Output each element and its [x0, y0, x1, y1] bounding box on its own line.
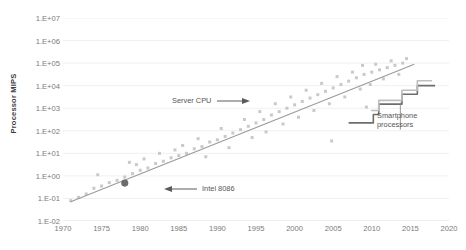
y-axis-tick-label: 1.E+01 — [16, 149, 60, 158]
data-point-marker — [405, 57, 408, 60]
data-point-marker — [320, 82, 323, 85]
arrow-right-icon — [217, 97, 251, 105]
data-point-marker — [247, 125, 250, 128]
chart-container: Processor MIPS 1.E+071.E+061.E+051.E+041… — [0, 0, 466, 250]
data-point-marker — [200, 145, 203, 148]
x-axis-tick-label: 2010 — [363, 224, 380, 233]
data-point-marker — [297, 116, 300, 119]
data-point-marker — [131, 172, 134, 175]
data-point-marker — [363, 73, 366, 76]
data-point-marker — [181, 144, 184, 147]
data-point-marker — [173, 148, 176, 151]
data-point-marker — [128, 161, 131, 164]
data-point-marker — [374, 63, 377, 66]
data-point-marker — [289, 95, 292, 98]
data-point-marker — [162, 160, 165, 163]
data-point-marker — [330, 139, 333, 142]
data-point-marker — [255, 121, 258, 124]
data-point-marker — [123, 176, 126, 179]
y-axis-tick-label: 1.E-01 — [16, 194, 60, 203]
data-point-marker — [96, 173, 99, 176]
data-point-marker — [336, 75, 339, 78]
data-point-marker — [351, 71, 354, 74]
data-point-marker — [386, 66, 389, 69]
data-point-marker — [359, 88, 362, 91]
data-point-marker — [282, 123, 285, 126]
data-point-marker — [216, 138, 219, 141]
data-point-marker — [332, 86, 335, 89]
data-point-marker — [397, 73, 400, 76]
data-point-marker — [197, 137, 200, 140]
data-point-marker — [239, 128, 242, 131]
data-point-marker — [339, 83, 342, 86]
x-axis-tick-label: 1995 — [248, 224, 265, 233]
x-axis-tick-label: 2000 — [286, 224, 303, 233]
data-point-marker — [170, 156, 173, 159]
y-axis-tick-label: 1.E+06 — [16, 36, 60, 45]
x-axis-tick-label: 1980 — [132, 224, 149, 233]
data-point-marker — [370, 71, 373, 74]
y-axis-tick-label: 1.E+04 — [16, 81, 60, 90]
data-point-marker — [204, 155, 207, 158]
x-axis-tick-label: 2005 — [325, 224, 342, 233]
x-axis-tick-label: 1975 — [93, 224, 110, 233]
data-point-marker — [251, 136, 254, 139]
data-point-marker — [369, 83, 372, 86]
y-axis-tick-label: 1.E+02 — [16, 126, 60, 135]
data-point-marker — [274, 102, 277, 105]
data-point-marker — [220, 127, 223, 130]
y-axis-tick-label: 1.E+05 — [16, 59, 60, 68]
data-point-marker — [92, 187, 95, 190]
annotation-server-cpu-label: Server CPU — [172, 96, 211, 105]
annotation-intel-8086-label: Intel 8086 — [202, 184, 234, 193]
y-axis-tick-label: 1.E+00 — [16, 171, 60, 180]
y-axis-tick-labels: 1.E+071.E+061.E+051.E+041.E+031.E+021.E+… — [0, 0, 60, 250]
x-axis-tick-label: 1985 — [170, 224, 187, 233]
data-point-marker — [401, 62, 404, 65]
x-axis-tick-label: 1970 — [55, 224, 72, 233]
data-point-marker — [305, 89, 308, 92]
x-axis-tick-labels: 1970197519801985199019952000200520102015… — [0, 224, 466, 238]
annotation-smartphone-line1: Smartphone — [377, 111, 417, 120]
data-point-marker — [193, 147, 196, 150]
x-axis-tick-label: 2020 — [441, 224, 458, 233]
x-axis-tick-label: 2015 — [402, 224, 419, 233]
data-point-marker — [390, 59, 393, 62]
data-point-marker — [324, 90, 327, 93]
data-point-marker — [378, 68, 381, 71]
data-point-marker — [116, 179, 119, 182]
data-point-marker — [309, 97, 312, 100]
data-point-marker — [270, 113, 273, 116]
data-point-marker — [365, 106, 368, 109]
data-point-marker — [177, 154, 180, 157]
annotation-intel-8086: Intel 8086 — [163, 184, 235, 193]
data-point-marker — [347, 80, 350, 83]
data-point-marker — [139, 169, 142, 172]
data-point-marker — [143, 157, 146, 160]
y-axis-tick-label: 1.E+07 — [16, 14, 60, 23]
x-axis-tick-label: 1990 — [209, 224, 226, 233]
annotation-smartphone: Smartphone processors — [377, 111, 441, 129]
data-point-marker — [224, 135, 227, 138]
data-point-marker — [262, 118, 265, 121]
data-point-marker — [293, 103, 296, 106]
y-axis-tick-label: 1.E+03 — [16, 104, 60, 113]
data-point-marker — [243, 118, 246, 121]
data-point-marker — [100, 185, 103, 188]
data-point-marker — [231, 132, 234, 135]
data-point-marker — [135, 163, 138, 166]
data-point-marker — [278, 110, 281, 113]
data-point-marker — [158, 152, 161, 155]
data-point-marker — [355, 76, 358, 79]
data-point-marker — [227, 146, 230, 149]
data-point-marker — [108, 181, 111, 184]
data-point-marker — [393, 64, 396, 67]
arrow-left-icon — [163, 185, 197, 193]
data-point-marker — [316, 93, 319, 96]
data-point-marker — [328, 102, 331, 105]
data-point-marker — [361, 64, 364, 67]
data-point-marker — [208, 141, 211, 144]
data-point-marker — [343, 95, 346, 98]
annotation-server-cpu: Server CPU — [172, 96, 251, 105]
data-point-marker — [265, 130, 268, 133]
